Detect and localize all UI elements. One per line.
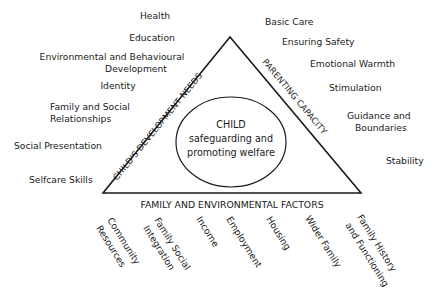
need-family-social-line2: Relationships [50,113,111,124]
child-development-needs-list: Health Education Environmental and Behav… [14,10,184,185]
need-health: Health [140,10,170,21]
need-environmental-behavioural-line1: Environmental and Behavioural [40,51,185,62]
factor-wider-family: Wider Family [303,213,344,269]
center-label: CHILD safeguarding and promoting welfare [187,119,275,158]
center-title: CHILD [216,119,245,130]
edge-label-family-environmental-factors: FAMILY AND ENVIRONMENTAL FACTORS [140,199,323,210]
need-environmental-behavioural-line2: Development [105,63,167,74]
need-education: Education [129,32,175,43]
factor-income: Income [194,214,221,249]
family-environmental-factors-list: Community Resources Family Social Integr… [94,212,399,288]
need-identity: Identity [100,80,136,91]
need-family-social-line1: Family and Social [50,101,130,112]
center-subtitle-line1: safeguarding and [189,133,273,144]
capacity-basic-care: Basic Care [265,16,314,27]
factor-housing: Housing [264,214,293,252]
capacity-emotional-warmth: Emotional Warmth [310,58,395,69]
capacity-guidance-line1: Guidance and [347,110,411,121]
capacity-stability: Stability [386,155,424,166]
need-selfcare-skills: Selfcare Skills [29,174,93,185]
need-social-presentation: Social Presentation [14,140,102,151]
capacity-stimulation: Stimulation [329,82,382,93]
capacity-guidance-line2: Boundaries [355,122,407,133]
capacity-ensuring-safety: Ensuring Safety [282,36,355,47]
factor-employment: Employment [224,214,264,270]
center-subtitle-line2: promoting welfare [187,147,275,158]
assessment-framework-triangle-diagram: CHILD safeguarding and promoting welfare… [0,0,433,300]
